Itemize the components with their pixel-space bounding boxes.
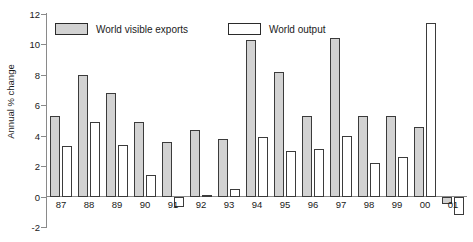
bar-99-output: [398, 157, 409, 197]
x-tick-label: 89: [112, 199, 123, 210]
y-tick-mark: [41, 166, 47, 167]
y-tick-mark: [41, 75, 47, 76]
x-tick-label: 95: [280, 199, 291, 210]
bar-97-output: [342, 136, 353, 197]
x-tick-label: 00: [420, 199, 431, 210]
bar-89-exports: [106, 93, 117, 196]
bar-95-output: [286, 151, 297, 197]
bar-92-exports: [190, 130, 201, 197]
bar-95-exports: [274, 72, 285, 197]
x-tick-label: 97: [336, 199, 347, 210]
bar-chart: World visible exports World output Annua…: [0, 0, 473, 242]
bar-98-exports: [358, 116, 369, 197]
x-tick-label: 93: [224, 199, 235, 210]
x-tick-label: 01: [448, 199, 459, 210]
x-tick-label: 92: [196, 199, 207, 210]
y-axis-tick-labels: 121086420-2: [0, 0, 40, 242]
bar-96-exports: [302, 116, 313, 197]
bar-00-exports: [414, 127, 425, 197]
bar-93-output: [230, 189, 241, 197]
y-tick-label: 8: [35, 69, 40, 80]
y-tick-label: 10: [29, 39, 40, 50]
x-tick-label: 88: [84, 199, 95, 210]
x-tick-label: 98: [364, 199, 375, 210]
bar-87-output: [62, 146, 73, 196]
bar-93-exports: [218, 139, 229, 197]
bar-00-output: [426, 23, 437, 196]
y-tick-label: 0: [35, 191, 40, 202]
bar-99-exports: [386, 116, 397, 197]
x-tick-label: 91: [168, 199, 179, 210]
bar-98-output: [370, 163, 381, 196]
bar-89-output: [118, 145, 129, 197]
y-tick-label: 2: [35, 161, 40, 172]
bar-91-exports: [162, 142, 173, 197]
y-tick-mark: [41, 136, 47, 137]
bar-96-output: [314, 149, 325, 196]
bar-88-exports: [78, 75, 89, 197]
y-tick-label: 12: [29, 9, 40, 20]
y-tick-mark: [41, 227, 47, 228]
bar-88-output: [90, 122, 101, 197]
bar-97-exports: [330, 38, 341, 196]
x-tick-label: 90: [140, 199, 151, 210]
bar-94-output: [258, 137, 269, 196]
x-tick-label: 87: [56, 199, 67, 210]
bar-92-output: [202, 195, 213, 197]
y-tick-mark: [41, 14, 47, 15]
y-tick-label: -2: [32, 222, 40, 233]
y-tick-label: 4: [35, 130, 40, 141]
y-tick-mark: [41, 105, 47, 106]
bar-87-exports: [50, 116, 61, 197]
x-tick-label: 96: [308, 199, 319, 210]
x-tick-label: 94: [252, 199, 263, 210]
bar-90-exports: [134, 122, 145, 197]
y-tick-label: 6: [35, 100, 40, 111]
bar-94-exports: [246, 40, 257, 197]
y-tick-mark: [41, 197, 47, 198]
y-tick-mark: [41, 44, 47, 45]
bar-90-output: [146, 175, 157, 196]
x-tick-label: 99: [392, 199, 403, 210]
